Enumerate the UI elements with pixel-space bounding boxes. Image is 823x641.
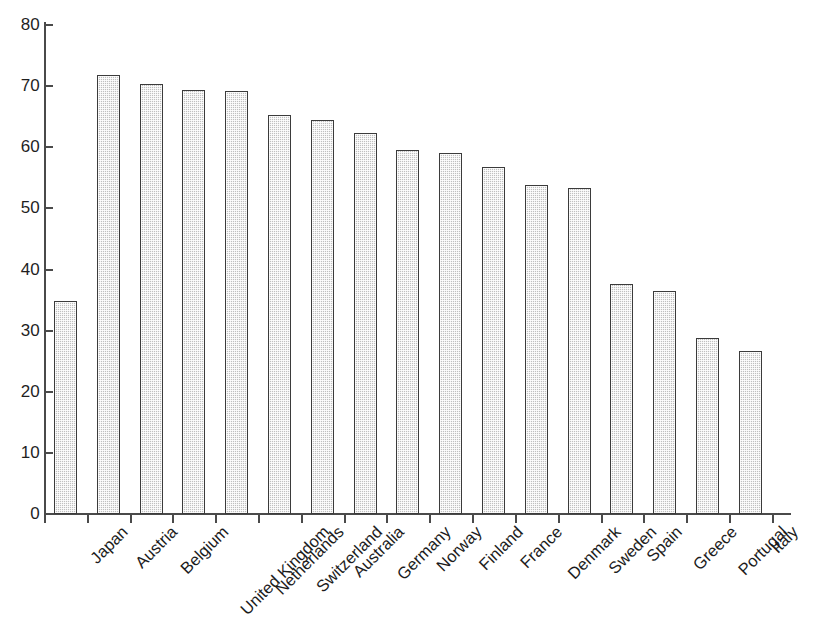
y-tick-label: 30 [0,322,40,339]
x-tick-mark [344,515,346,523]
y-tick-label-text: 50 [6,199,40,216]
x-tick-mark [686,515,688,523]
x-tick-mark [729,515,731,523]
y-tick-label: 70 [0,77,40,94]
x-axis-label: France [518,523,566,571]
bar [696,338,719,514]
bar [439,153,462,514]
x-tick-mark [386,515,388,523]
caption-strip [0,628,823,641]
bar [354,133,377,514]
bars-container [44,18,791,514]
bar [653,291,676,514]
bar [140,84,163,514]
x-tick-mark [515,515,517,523]
x-tick-mark [601,515,603,523]
bar [739,351,762,514]
x-tick-mark [429,515,431,523]
y-tick-label: 50 [0,199,40,216]
bar [268,115,291,514]
bar [311,120,334,514]
x-tick-mark [643,515,645,523]
y-tick-label-text: 70 [6,77,40,94]
x-tick-mark [215,515,217,523]
bar [225,91,248,514]
y-tick-label: 60 [0,138,40,155]
y-tick-label-text: 0 [6,505,40,522]
bar-chart: 01020304050607080 JapanAustriaBelgiumUni… [0,0,823,641]
bar [396,150,419,514]
y-tick-label-text: 30 [6,322,40,339]
x-axis-label: Austria [132,523,180,571]
x-tick-mark [301,515,303,523]
y-tick-label: 20 [0,383,40,400]
bar [525,185,548,514]
bar [610,284,633,514]
y-tick-label-text: 20 [6,383,40,400]
x-tick-mark [558,515,560,523]
bar [97,75,120,514]
y-tick-label: 40 [0,261,40,278]
y-tick-label-text: 40 [6,261,40,278]
y-tick-label: 0 [0,505,40,522]
y-tick-label-text: 60 [6,138,40,155]
x-tick-mark [772,515,774,523]
y-tick-label: 80 [0,16,40,33]
x-tick-mark [130,515,132,523]
x-tick-mark [258,515,260,523]
y-tick-label-text: 80 [6,16,40,33]
x-tick-mark [87,515,89,523]
x-axis-label: Japan [88,523,132,567]
x-axis-label: Greece [690,523,740,573]
y-tick-label-text: 10 [6,444,40,461]
x-tick-mark [44,515,46,523]
x-axis-label: Finland [476,523,526,573]
bar [54,301,77,514]
x-tick-mark [172,515,174,523]
bar [568,188,591,514]
y-tick-label: 10 [0,444,40,461]
x-axis-label: Belgium [177,523,231,577]
bar [182,90,205,514]
bar [482,167,505,514]
